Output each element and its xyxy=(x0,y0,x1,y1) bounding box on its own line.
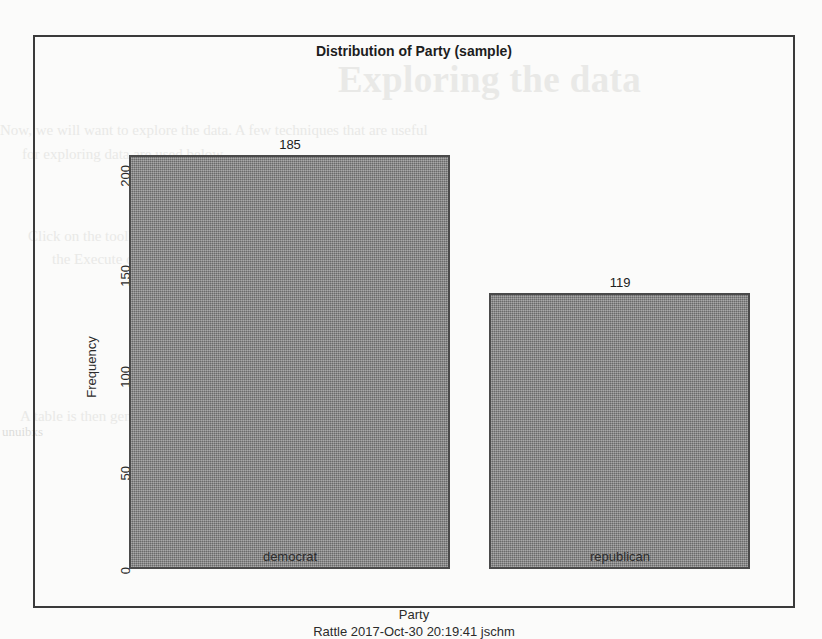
y-axis-title: Frequency xyxy=(84,336,99,397)
x-axis-category-democrat: democrat xyxy=(263,549,317,564)
bar-democrat[interactable] xyxy=(129,155,450,569)
chart-subtitle: Rattle 2017-Oct-30 20:19:41 jschm xyxy=(35,624,793,639)
x-axis-category-republican: republican xyxy=(590,549,650,564)
chart-title: Distribution of Party (sample) xyxy=(35,43,793,59)
bar-value-label-democrat: 185 xyxy=(279,137,301,152)
plot-frame: Distribution of Party (sample) Frequency… xyxy=(33,35,795,608)
x-axis-title: Party xyxy=(35,607,793,622)
bar-value-label-republican: 119 xyxy=(610,275,631,290)
bar-republican[interactable] xyxy=(489,293,750,569)
screenshot-root: Exploring the data Now, we will want to … xyxy=(0,0,822,639)
